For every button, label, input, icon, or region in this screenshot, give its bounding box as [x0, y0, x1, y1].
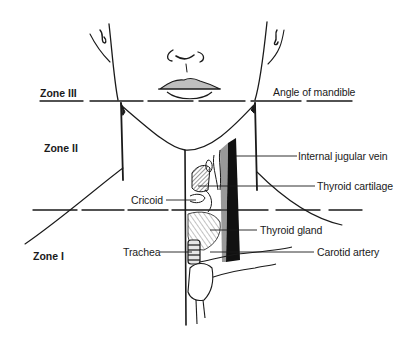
label-angle-of-mandible: Angle of mandible [273, 87, 355, 98]
zone-2-label: Zone II [44, 143, 78, 154]
label-trachea: Trachea [123, 247, 160, 258]
neck-zones-diagram: Zone III Zone II Zone I Angle of mandibl… [0, 0, 410, 342]
label-carotid-artery: Carotid artery [317, 247, 379, 258]
thyroid-cartilage-shape [192, 165, 210, 191]
left-shoulder-line [25, 168, 123, 244]
left-ear [90, 34, 110, 62]
right-face-outline [255, 22, 267, 100]
nose-icon [168, 50, 173, 61]
zone-1-label: Zone I [33, 251, 64, 262]
clavicle-shape [188, 247, 292, 324]
anatomy-illustration [0, 0, 410, 342]
carotid-sheath [226, 138, 240, 262]
midline-incision [185, 150, 186, 325]
label-thyroid-cartilage: Thyroid cartilage [317, 181, 393, 192]
lips [158, 79, 221, 99]
label-internal-jugular-vein: Internal jugular vein [298, 151, 388, 162]
right-neck-side [255, 103, 257, 190]
zone-3-label: Zone III [40, 88, 77, 99]
label-cricoid: Cricoid [131, 195, 163, 206]
label-thyroid-gland: Thyroid gland [260, 225, 322, 236]
